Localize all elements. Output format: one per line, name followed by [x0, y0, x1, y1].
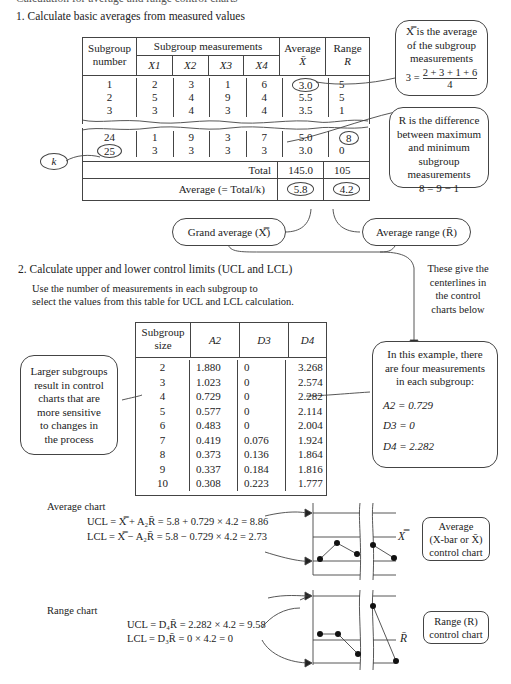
x4-cell: 4: [247, 104, 284, 117]
x3-cell: 1: [210, 78, 247, 91]
header-d4: D4: [289, 323, 326, 357]
table-row: 80.3730.1361.864: [136, 447, 326, 462]
rows-bottom: 2419375.082533333.00: [83, 128, 369, 162]
table-row: 50.57702.114: [136, 404, 326, 419]
x2-cell: 4: [174, 91, 211, 104]
grand-average-value: 5.8: [287, 182, 315, 196]
d3-cell: 0.076: [238, 433, 286, 448]
cut-header: Calculation for average and range contro…: [16, 0, 238, 5]
header-a2: A2: [191, 323, 240, 357]
table-row: 334343.51: [83, 104, 369, 117]
xbar-callout: X̿ is the average of the subgroup measur…: [395, 20, 488, 96]
range-cell: 1: [329, 104, 369, 117]
table-row: 100.3080.2231.777: [136, 476, 326, 491]
table-row: 70.4190.0761.924: [136, 433, 326, 448]
a2-cell: 0.419: [190, 433, 238, 448]
table-row: 2533333.00: [83, 144, 369, 157]
a2-cell: 0.729: [190, 389, 238, 404]
d4-cell: 1.864: [286, 447, 326, 462]
x4-cell: 6: [247, 78, 284, 91]
header-d3: D3: [240, 323, 289, 357]
d3-cell: 0: [238, 389, 286, 404]
subgroup-number-cell: 1: [83, 78, 137, 91]
d4-cell: 2.114: [286, 404, 326, 419]
size-cell: 8: [136, 447, 190, 462]
table-row: 2419375.08: [83, 131, 369, 144]
x2-cell: 3: [174, 144, 211, 157]
section2-instruction: Use the number of measurements in each s…: [32, 282, 294, 308]
a2-cell: 0.577: [190, 404, 238, 419]
range-lcl: LCL = D₃R̄ = 0 × 4.2 = 0: [127, 632, 233, 645]
measurements-table-bottom: 2419375.082533333.00 Total 145.0 105 Ave…: [82, 128, 370, 201]
range-cell: 5: [329, 91, 369, 104]
x1-cell: 3: [137, 104, 174, 117]
table-row: 40.72902.282: [136, 389, 326, 404]
rows-top: 123163.05254945.55334343.51: [83, 76, 369, 124]
range-cell: 8: [329, 131, 369, 144]
section1-title: 1. Calculate basic averages from measure…: [16, 10, 245, 23]
d3-cell: 0.223: [238, 476, 286, 491]
size-cell: 3: [136, 375, 190, 390]
header-average: AverageX̄: [280, 38, 326, 75]
x1-cell: 3: [137, 144, 174, 157]
total-average: 145.0: [278, 162, 324, 178]
x3-cell: 3: [210, 104, 247, 117]
r-centerline-label: R̄: [400, 632, 407, 645]
d4-cell: 2.282: [286, 389, 326, 404]
x4-cell: 7: [247, 131, 284, 144]
d4-cell: 2.004: [286, 418, 326, 433]
subgroup-number-cell: 25: [83, 144, 137, 157]
average-label: Average (= Total/k): [83, 179, 278, 200]
range-callout: R is the difference between maximum and …: [389, 107, 489, 188]
x3-cell: 9: [210, 91, 247, 104]
x4-cell: 3: [247, 144, 284, 157]
range-cell: 5: [329, 78, 369, 91]
size-cell: 10: [136, 476, 190, 491]
d3-cell: 0: [238, 375, 286, 390]
average-cell: 3.0: [283, 78, 329, 91]
grand-average-pill: Grand average (X̿): [172, 218, 286, 246]
x2-cell: 3: [174, 78, 211, 91]
subgroup-number-cell: 3: [83, 104, 137, 117]
a2-cell: 0.308: [190, 476, 238, 491]
d4-cell: 3.268: [286, 360, 326, 375]
x1-cell: 1: [137, 131, 174, 144]
range-chart-box: Range (R) control chart: [423, 611, 489, 644]
d3-cell: 0: [238, 404, 286, 419]
header-measurements: Subgroup measurements X1 X2 X3 X4: [137, 38, 280, 75]
table-row: 123163.05: [83, 78, 369, 91]
table-row: 254945.55: [83, 91, 369, 104]
average-ucl: UCL = X̿ + A₂R̄ = 5.8 + 0.729 × 4.2 = 8.…: [87, 515, 268, 528]
d3-cell: 0: [238, 418, 286, 433]
header-range: RangeR: [326, 38, 369, 75]
average-lcl: LCL = X̿ − A₂R̄ = 5.8 − 0.729 × 4.2 = 2.…: [87, 530, 267, 543]
constants-table: Subgroup size A2 D3 D4 21.88003.26831.02…: [135, 322, 327, 496]
size-cell: 2: [136, 360, 190, 375]
section2-title: 2. Calculate upper and lower control lim…: [18, 263, 292, 276]
table-row: 31.02302.574: [136, 375, 326, 390]
table-row: 21.88003.268: [136, 360, 326, 375]
average-cell: 5.5: [283, 91, 329, 104]
total-label: Total: [83, 162, 278, 178]
example-note: In this example, there are four measurem…: [372, 341, 498, 468]
average-cell: 5.0: [283, 131, 329, 144]
x2-cell: 4: [174, 104, 211, 117]
d3-cell: 0.136: [238, 447, 286, 462]
average-cell: 3.0: [283, 144, 329, 157]
centerline-note: These give the centerlines in the contro…: [418, 262, 498, 316]
size-cell: 6: [136, 418, 190, 433]
a2-cell: 1.023: [190, 375, 238, 390]
header-subgroup-size: Subgroup size: [136, 323, 191, 357]
d4-cell: 1.777: [286, 476, 326, 491]
x1-cell: 5: [137, 91, 174, 104]
total-range: 105: [324, 162, 369, 178]
d3-cell: 0: [238, 360, 286, 375]
range-ucl: UCL = D₄R̄ = 2.282 × 4.2 = 9.58: [127, 618, 266, 631]
d4-cell: 2.574: [286, 375, 326, 390]
constants-rows: 21.88003.26831.02302.57440.72902.28250.5…: [136, 358, 326, 495]
xbar-centerline-label: X̿: [398, 530, 405, 543]
x2-cell: 9: [174, 131, 211, 144]
d3-cell: 0.184: [238, 462, 286, 477]
measurements-table-top: Subgroupnumber Subgroup measurements X1 …: [82, 37, 370, 124]
left-note: Larger subgroups result in control chart…: [20, 355, 118, 455]
